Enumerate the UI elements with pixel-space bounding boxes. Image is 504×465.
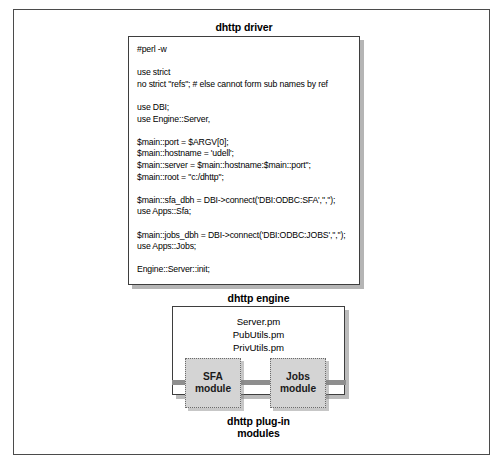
dhttp-driver-code-box: #perl -w use strict no strict "refs"; # … <box>128 36 360 285</box>
plugin-box-sfa: SFA module <box>185 358 241 408</box>
driver-code-listing: #perl -w use strict no strict "refs"; # … <box>137 44 355 276</box>
connector-bar-right <box>326 380 346 385</box>
diagram-figure: dhttp driver #perl -w use strict no stri… <box>0 0 504 465</box>
plugin-box-jobs: Jobs module <box>270 358 326 408</box>
dhttp-plugin-modules-caption: dhttp plug-in modules <box>172 415 345 439</box>
plugin-box-sfa-label: SFA module <box>195 371 231 396</box>
dhttp-driver-caption: dhttp driver <box>128 21 360 33</box>
engine-module-list: Server.pm PubUtils.pm PrivUtils.pm <box>173 315 344 355</box>
connector-bar-left <box>172 380 186 385</box>
plugin-box-jobs-label: Jobs module <box>280 371 316 396</box>
connector-bar-middle <box>240 380 271 385</box>
dhttp-engine-caption: dhttp engine <box>172 292 345 304</box>
